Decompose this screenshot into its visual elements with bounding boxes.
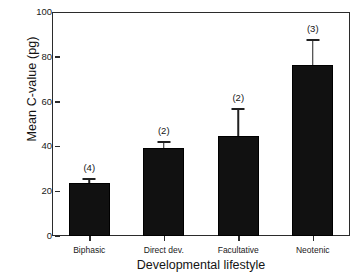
y-tick-mark [55, 191, 60, 193]
bar [69, 183, 110, 236]
error-bar-cap [232, 108, 245, 110]
x-tick-label: Facultative [218, 245, 259, 255]
y-tick-mark [55, 56, 60, 58]
y-tick-label: 40 [41, 140, 52, 151]
y-tick-label: 80 [41, 51, 52, 62]
bar-annotation: (2) [232, 92, 244, 103]
bar [143, 148, 184, 236]
y-tick-mark [55, 146, 60, 148]
y-tick-mark [55, 101, 60, 103]
x-tick-label: Neotenic [296, 245, 330, 255]
bar-annotation: (3) [307, 23, 319, 34]
error-bar-cap [157, 141, 170, 143]
x-tick-mark [238, 236, 240, 241]
y-tick-mark [55, 236, 60, 238]
x-tick-mark [313, 236, 315, 241]
x-tick-mark [164, 236, 166, 241]
bar-annotation: (4) [83, 162, 95, 173]
x-tick-mark [89, 236, 91, 241]
bar [292, 65, 333, 236]
bar [218, 136, 259, 236]
error-bar-cap [306, 39, 319, 41]
bar-annotation: (2) [158, 125, 170, 136]
y-tick-label: 0 [47, 230, 52, 241]
x-axis-label: Developmental lifestyle [52, 258, 350, 272]
y-tick-label: 60 [41, 96, 52, 107]
y-tick-label: 100 [36, 6, 52, 17]
y-tick-label: 20 [41, 185, 52, 196]
error-bar-line [238, 108, 240, 136]
error-bar-cap [83, 178, 96, 180]
x-tick-label: Direct dev. [144, 245, 184, 255]
y-axis-label: Mean C-value (pg) [25, 9, 39, 169]
x-tick-label: Biphasic [73, 245, 105, 255]
error-bar-line [312, 39, 314, 65]
chart-figure: Mean C-value (pg) Developmental lifestyl… [0, 0, 363, 278]
y-tick-mark [55, 12, 60, 14]
